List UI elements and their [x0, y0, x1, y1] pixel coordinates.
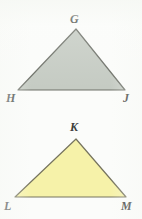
triangles-svg: [0, 0, 142, 219]
geometry-figure-sheet: · · · G H J K L M: [0, 0, 142, 219]
vertex-label-j: J: [123, 92, 129, 104]
vertex-label-k: K: [70, 121, 78, 133]
vertex-label-m: M: [121, 200, 132, 212]
vertex-label-l: L: [4, 200, 11, 212]
triangle-ghj: [18, 29, 125, 90]
triangle-klm: [15, 139, 126, 197]
vertex-label-g: G: [70, 13, 79, 25]
vertex-label-h: H: [6, 92, 15, 104]
